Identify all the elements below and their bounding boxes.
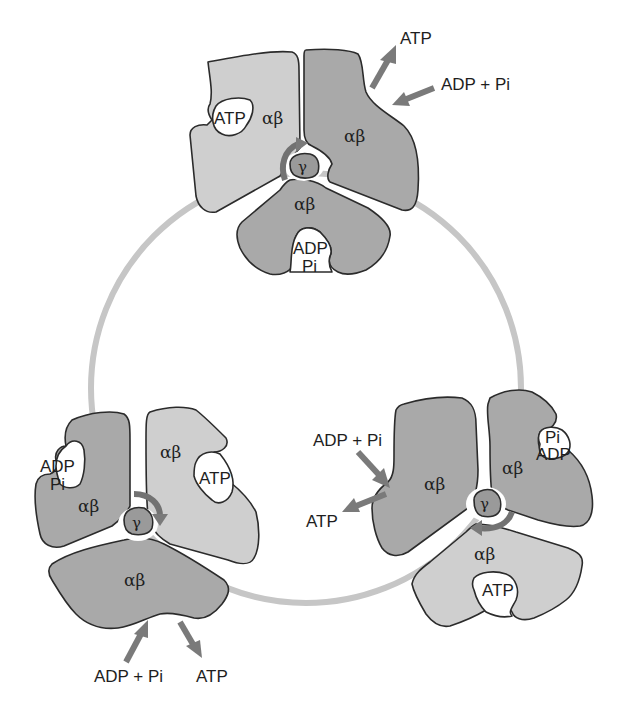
top-pocket-pi-label: Pi <box>302 257 317 276</box>
top-subunit-light-label: αβ <box>262 108 283 128</box>
left-subunit-bottom-label: αβ <box>124 570 145 590</box>
top-atp-out-arrowhead-icon <box>380 45 396 64</box>
right-pocket-atp-label: ATP <box>482 581 514 600</box>
right-adp-in-arrow <box>358 452 380 476</box>
right-subunit-left-label: αβ <box>424 474 445 494</box>
right-cluster: αβ Pi ADP αβ ATP αβ γ ADP + Pi ATP <box>306 390 593 626</box>
top-adp-in-arrow <box>404 88 434 100</box>
right-subunit-bottom-label: αβ <box>474 544 495 564</box>
left-atp-out-arrowhead-icon <box>186 640 202 658</box>
left-atp-out-arrow <box>180 622 194 646</box>
left-gamma-label: γ <box>132 514 141 532</box>
top-pocket-atp-label: ATP <box>214 109 246 128</box>
top-subunit-bottom-label: αβ <box>294 194 315 214</box>
top-atp-out-label: ATP <box>400 29 432 48</box>
right-atp-out-label: ATP <box>306 512 338 531</box>
top-adp-in-label: ADP + Pi <box>441 75 510 94</box>
left-subunit-left-label: αβ <box>78 496 99 516</box>
left-pocket-atp-label: ATP <box>199 469 231 488</box>
left-subunit-right-label: αβ <box>160 442 181 462</box>
top-gamma-label: γ <box>298 158 307 176</box>
left-pocket-adp-label: ADP <box>40 457 75 476</box>
right-subunit-right-label: αβ <box>502 458 523 478</box>
top-subunit-right-label: αβ <box>344 126 365 146</box>
left-atp-out-label: ATP <box>196 667 228 686</box>
top-atp-out-arrow <box>372 60 388 88</box>
right-gamma-label: γ <box>480 495 489 513</box>
top-pocket-adp-label: ADP <box>293 239 328 258</box>
left-cluster: ADP Pi αβ ATP αβ αβ γ ADP + Pi ATP <box>35 407 259 686</box>
right-adp-in-label: ADP + Pi <box>313 431 382 450</box>
atp-synthase-cycle-diagram: ATP αβ αβ ADP Pi αβ γ ATP ADP + Pi ADP P… <box>0 0 618 701</box>
right-pocket-adp-label: ADP <box>536 445 571 464</box>
left-pocket-pi-label: Pi <box>50 475 65 494</box>
left-adp-in-arrow <box>126 632 142 662</box>
left-adp-in-label: ADP + Pi <box>94 667 163 686</box>
